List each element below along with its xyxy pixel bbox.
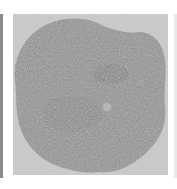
right-edge-strip <box>174 14 177 178</box>
image-frame <box>13 14 168 175</box>
blob-shape <box>15 19 166 173</box>
speckled-blob-image <box>13 14 168 175</box>
bright-spot <box>103 103 111 111</box>
left-edge-strip <box>0 14 3 178</box>
